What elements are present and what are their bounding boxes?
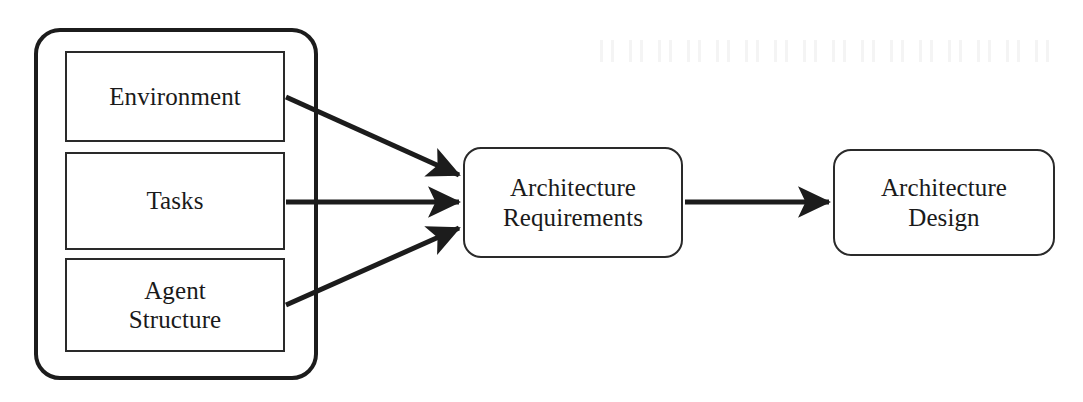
node-architecture-design[interactable]: Architecture Design xyxy=(833,149,1055,256)
diagram-canvas: Environment Tasks Agent Structure Archit… xyxy=(0,0,1083,402)
node-environment-label: Environment xyxy=(109,82,241,112)
node-environment[interactable]: Environment xyxy=(65,51,285,142)
node-agent-structure-label: Agent Structure xyxy=(129,276,222,335)
node-architecture-requirements-label: Architecture Requirements xyxy=(503,173,643,232)
node-agent-structure[interactable]: Agent Structure xyxy=(65,258,285,352)
scan-artifact xyxy=(600,40,1060,62)
node-architecture-requirements[interactable]: Architecture Requirements xyxy=(463,147,683,258)
node-architecture-design-label: Architecture Design xyxy=(881,173,1007,232)
node-tasks-label: Tasks xyxy=(146,186,203,216)
node-tasks[interactable]: Tasks xyxy=(65,152,285,250)
